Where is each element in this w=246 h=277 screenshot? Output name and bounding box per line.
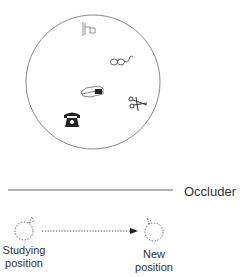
new-label-line1: New bbox=[132, 248, 176, 261]
telephone-icon bbox=[64, 113, 80, 128]
new-label-line2: position bbox=[132, 261, 176, 274]
studying-label-line2: position bbox=[2, 257, 46, 270]
diagram-canvas bbox=[0, 0, 246, 277]
flag-icon bbox=[83, 22, 95, 36]
studying-label-line1: Studying bbox=[2, 244, 46, 257]
studying-position-label: Studying position bbox=[2, 244, 46, 270]
stapler-icon bbox=[81, 86, 103, 97]
new-position-label: New position bbox=[132, 248, 176, 274]
occluder-label: Occluder bbox=[184, 184, 236, 199]
array-circle bbox=[26, 15, 160, 149]
studying-position-marker bbox=[15, 217, 34, 240]
new-position-marker bbox=[145, 218, 163, 241]
scissors-icon bbox=[129, 97, 147, 111]
glasses-icon bbox=[111, 56, 134, 65]
